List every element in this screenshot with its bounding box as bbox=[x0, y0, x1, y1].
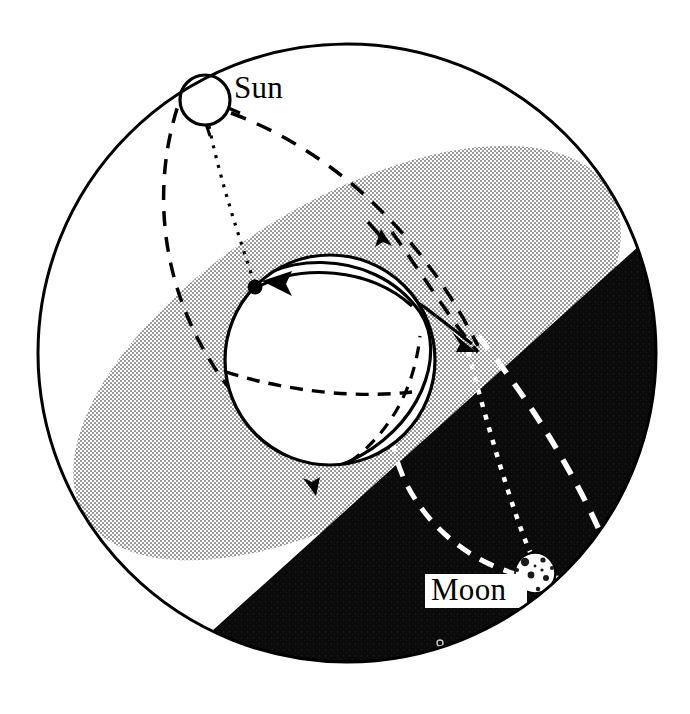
moon-ecliptic-dashed-white-lower bbox=[556, 578, 620, 583]
orbital-node-dot bbox=[248, 280, 263, 295]
celestial-sphere-figure: Sun Moon bbox=[0, 0, 690, 714]
moon-label-group: Moon bbox=[425, 572, 527, 608]
sun-label: Sun bbox=[234, 70, 283, 105]
sun-body bbox=[180, 75, 230, 125]
sun-disc bbox=[180, 75, 230, 125]
moon-label: Moon bbox=[431, 572, 506, 607]
celestial-sphere-canvas: Sun Moon bbox=[0, 0, 690, 714]
